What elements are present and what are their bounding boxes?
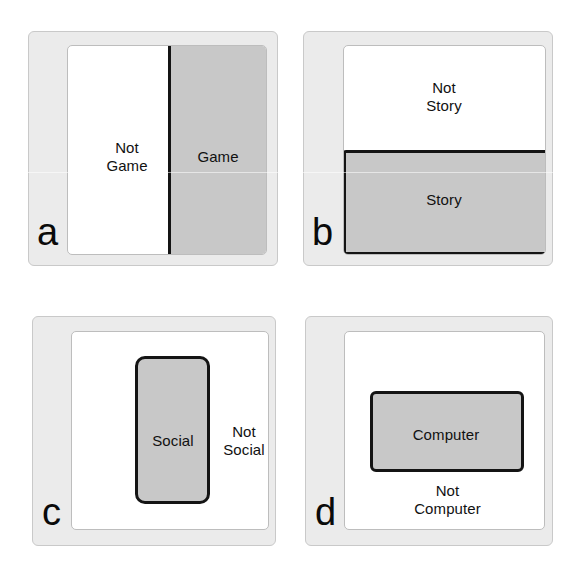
panel-b-subset-label: Story (404, 191, 484, 209)
panel-b: Not Story Story b (303, 31, 553, 266)
panel-d-subset-label: Computer (410, 426, 482, 444)
panel-a-complement-label: Not Game (87, 139, 167, 175)
panel-b-universe (343, 45, 546, 255)
panel-c-subset-social[interactable] (135, 356, 210, 504)
panel-a-letter: a (37, 213, 58, 251)
panel-d-complement-label: Not Computer (380, 482, 515, 518)
panel-a-subset-label: Game (178, 148, 258, 166)
panel-b-complement-label: Not Story (404, 79, 484, 115)
panel-d-letter: d (315, 493, 336, 531)
figure-canvas: Not Game Game a Not Story Story b Social… (0, 0, 585, 572)
panel-d: Computer Not Computer d (305, 316, 553, 546)
panel-a: Not Game Game a (28, 31, 278, 266)
panel-c-complement-label: Not Social (211, 423, 277, 459)
panel-b-letter: b (312, 213, 333, 251)
panel-c-subset-label: Social (136, 432, 210, 450)
panel-c: Social Not Social c (32, 316, 276, 546)
panel-c-letter: c (42, 493, 61, 531)
